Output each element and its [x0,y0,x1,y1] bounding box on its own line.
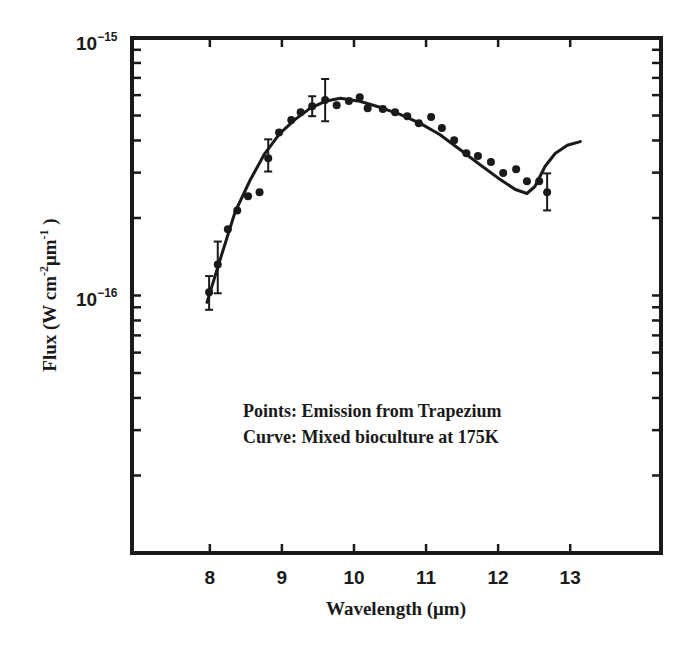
x-tick-label: 8 [205,567,216,588]
y-axis-title: Flux (W cm-2μm-1 ) [37,218,61,371]
annotation-points: Points: Emission from Trapezium [243,401,502,421]
data-point [364,104,372,112]
data-point [450,136,458,144]
data-points [205,93,551,296]
data-point [499,169,507,177]
data-point [214,260,222,268]
data-point [462,149,470,157]
data-point [244,192,252,200]
annotation-curve: Curve: Mixed bioculture at 175K [243,427,499,447]
data-point [224,225,232,233]
data-point [427,113,435,121]
data-point [264,154,272,162]
y-tick-label-1e-15: 10−15 [76,30,118,54]
data-point [438,124,446,132]
data-point [356,93,364,101]
x-tick-label: 13 [560,567,581,588]
data-point [474,152,482,160]
data-point [415,119,423,127]
data-point [535,177,543,185]
model-curve [207,98,580,302]
data-point [275,128,283,136]
x-tick-label: 9 [277,567,288,588]
data-point [256,188,264,196]
x-tick-labels: 8910111213 [205,567,581,588]
data-point [308,102,316,110]
data-point [287,116,295,124]
data-point [487,158,495,166]
data-point [345,97,353,105]
data-point [391,108,399,116]
x-tick-label: 11 [416,567,437,588]
data-point [379,105,387,113]
spectrum-chart: 10−15 10−16 8910111213 Wavelength (μm) F… [0,0,698,663]
data-point [333,101,341,109]
data-point [205,288,213,296]
data-point [543,188,551,196]
y-tick-label-1e-16: 10−16 [76,286,118,310]
data-point [297,108,305,116]
data-point [512,165,520,173]
data-point [523,177,531,185]
x-axis-title: Wavelength (μm) [326,598,466,620]
data-point [233,206,241,214]
x-tick-label: 10 [343,567,364,588]
data-point [321,96,329,104]
data-point [403,112,411,120]
x-tick-label: 12 [488,567,509,588]
